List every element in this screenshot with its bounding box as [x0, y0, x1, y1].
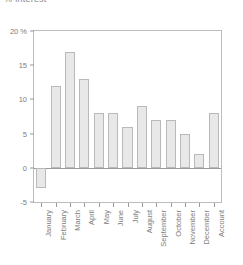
bar-september[interactable]: [151, 120, 161, 168]
y-axis-tick-label: 10: [19, 95, 27, 104]
bar-account[interactable]: [209, 113, 219, 168]
x-axis-tick-label-july: July: [131, 210, 140, 223]
x-axis-tick-mark: [41, 203, 42, 207]
y-axis-tick-mark: [30, 31, 34, 32]
x-axis-tick-label-account: Account: [217, 210, 226, 237]
x-axis-tick-label-february: February: [59, 210, 68, 240]
y-axis-tick-mark: [30, 167, 34, 168]
x-axis-tick-label-november: November: [188, 210, 197, 245]
bar-february[interactable]: [51, 86, 61, 168]
x-axis-tick-label-april: April: [87, 210, 96, 225]
x-axis-tick-mark: [128, 203, 129, 207]
plot-inner: [34, 31, 221, 202]
y-axis-tick-label: -5: [20, 198, 27, 207]
x-axis-tick-label-june: June: [116, 210, 125, 226]
y-axis-tick-label: 5: [23, 129, 27, 138]
bar-october[interactable]: [166, 120, 176, 168]
bar-june[interactable]: [108, 113, 118, 168]
bar-april[interactable]: [79, 79, 89, 168]
plot-area: [33, 30, 222, 203]
page-title: % Interest: [4, 0, 47, 4]
x-axis-tick-mark: [113, 203, 114, 207]
x-axis-tick-mark: [156, 203, 157, 207]
bar-chart-figure: % Interest 20 %151050-5 JanuaryFebruaryM…: [0, 0, 243, 265]
y-axis: 20 %151050-5: [0, 30, 27, 203]
x-axis-tick-label-march: March: [73, 210, 82, 231]
bar-november[interactable]: [180, 134, 190, 168]
bar-march[interactable]: [65, 52, 75, 168]
zero-baseline: [34, 168, 221, 169]
bar-december[interactable]: [194, 154, 204, 168]
x-axis-tick-label-august: August: [145, 210, 154, 233]
x-axis-tick-label-january: January: [44, 210, 53, 237]
bar-january[interactable]: [36, 168, 46, 189]
x-axis-tick-mark: [199, 203, 200, 207]
x-axis-tick-mark: [99, 203, 100, 207]
x-axis-tick-label-september: September: [159, 210, 168, 247]
bar-july[interactable]: [122, 127, 132, 168]
x-axis-tick-mark: [171, 203, 172, 207]
x-axis-tick-label-may: May: [102, 210, 111, 224]
x-axis-tick-mark: [56, 203, 57, 207]
x-axis-tick-mark: [185, 203, 186, 207]
x-axis-tick-mark: [142, 203, 143, 207]
x-axis-tick-label-october: October: [174, 210, 183, 237]
y-axis-tick-label: 15: [19, 61, 27, 70]
y-axis-tick-mark: [30, 202, 34, 203]
y-axis-tick-label: 0: [23, 163, 27, 172]
y-axis-tick-label: 20 %: [10, 27, 27, 36]
bar-august[interactable]: [137, 106, 147, 168]
x-axis-tick-mark: [70, 203, 71, 207]
y-axis-tick-mark: [30, 99, 34, 100]
x-axis-tick-label-december: December: [202, 210, 211, 245]
x-axis-tick-mark: [84, 203, 85, 207]
y-axis-tick-mark: [30, 65, 34, 66]
y-axis-tick-mark: [30, 133, 34, 134]
bar-may[interactable]: [94, 113, 104, 168]
x-axis-tick-mark: [214, 203, 215, 207]
